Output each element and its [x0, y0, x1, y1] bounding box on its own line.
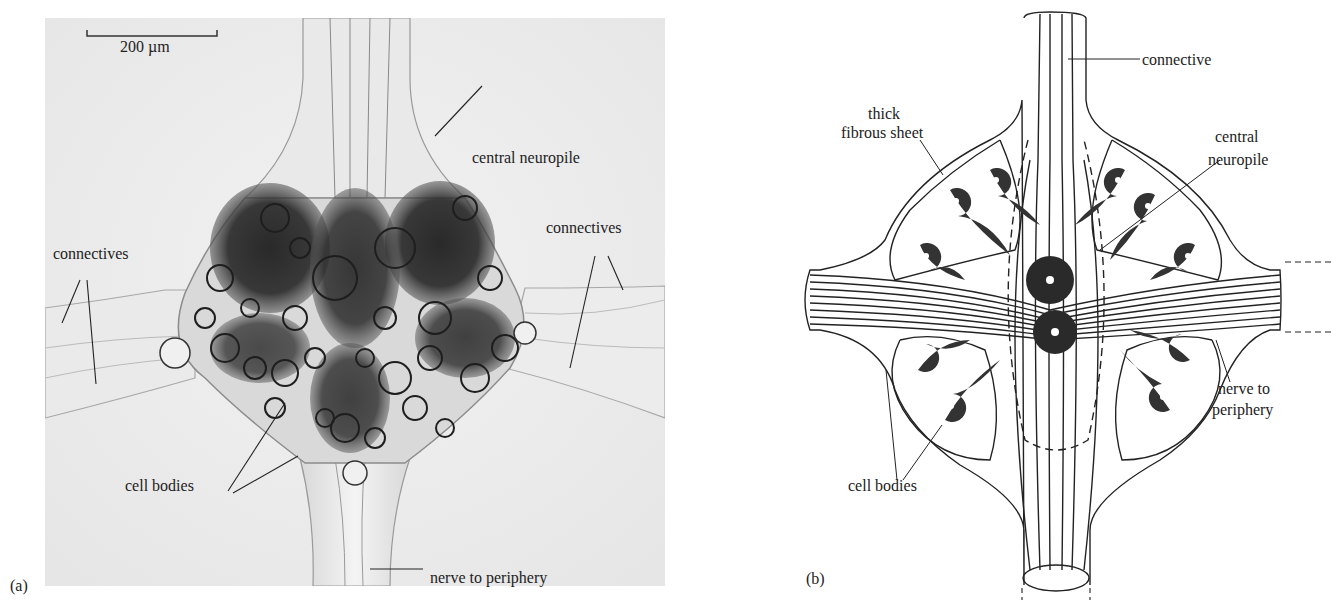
label-cell-bodies: cell bodies	[125, 478, 194, 494]
panel-b-tag: (b)	[806, 570, 825, 588]
label-nerve-to: nerve to	[1218, 381, 1270, 397]
label-connectives-left: connectives	[53, 246, 129, 262]
label-central-neuropile: central neuropile	[472, 150, 580, 166]
panel-a-tag: (a)	[10, 577, 28, 595]
label-fibrous-sheet: fibrous sheet	[841, 125, 923, 141]
ganglion-schematic	[800, 10, 1332, 600]
ganglion-micrograph	[45, 18, 665, 586]
label-connective: connective	[1142, 52, 1211, 68]
label-central: central	[1215, 129, 1259, 145]
label-thick: thick	[868, 106, 900, 122]
label-connectives-right: connectives	[546, 220, 622, 236]
scale-bar-label: 200 µm	[120, 39, 170, 55]
label-periphery: periphery	[1212, 402, 1273, 418]
label-cell-bodies-b: cell bodies	[848, 478, 917, 494]
label-nerve-to-periphery: nerve to periphery	[430, 570, 547, 586]
label-neuropile: neuropile	[1208, 152, 1268, 168]
